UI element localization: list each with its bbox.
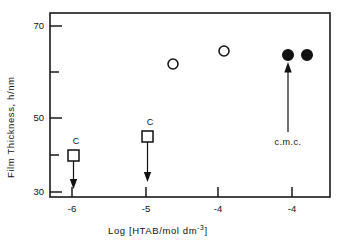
- x-axis-title-exponent: -3: [197, 224, 204, 231]
- x-axis-ticks: [72, 187, 292, 197]
- cmc-arrow-head: [284, 62, 291, 73]
- y-tick-label-70: 70: [33, 20, 44, 31]
- figure-container: 70 50 30 Film Thickness, h/nm -6 -5 -4 -…: [0, 0, 347, 242]
- x-tick-label-1: -6: [68, 203, 76, 214]
- y-axis-title: Film Thickness, h/nm: [5, 76, 16, 178]
- y-axis-major-ticks: [50, 26, 62, 192]
- scatter-plot: 70 50 30 Film Thickness, h/nm -6 -5 -4 -…: [0, 0, 347, 242]
- x-tick-label-2: -5: [142, 203, 150, 214]
- data-point-open-circle-1: [168, 59, 178, 69]
- series-open-squares: C C: [68, 117, 154, 189]
- cmc-annotation: c.m.c.: [275, 62, 302, 147]
- y-tick-label-30: 30: [33, 186, 44, 197]
- down-arrow-1: [70, 161, 77, 189]
- data-point-filled-circle-2: [302, 50, 313, 61]
- data-point-filled-circle-1: [283, 50, 294, 61]
- x-axis-title: Log [HTAB/mol dm-3]: [108, 224, 208, 236]
- series-open-circles: [168, 46, 229, 69]
- data-point-square-2: [142, 131, 153, 142]
- x-tick-label-3: -4: [214, 203, 222, 214]
- x-axis-title-tail: ]: [204, 225, 207, 236]
- data-point-square-1: [68, 150, 79, 161]
- x-tick-label-4: -4: [288, 203, 296, 214]
- series-filled-circles: [283, 50, 313, 61]
- data-point-open-circle-2: [219, 46, 229, 56]
- square-label-c-2: C: [147, 117, 154, 127]
- cmc-label: c.m.c.: [275, 137, 302, 147]
- y-axis-minor-ticks: [50, 72, 59, 155]
- y-tick-label-50: 50: [33, 112, 44, 123]
- x-axis-title-main: Log [HTAB/mol dm: [108, 225, 197, 236]
- down-arrow-2: [144, 142, 151, 182]
- square-label-c-1: C: [73, 136, 80, 146]
